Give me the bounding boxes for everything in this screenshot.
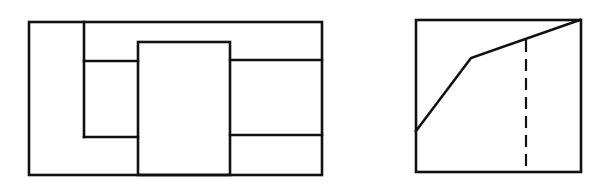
bent-curve-line	[416, 20, 580, 131]
left-figure	[29, 22, 322, 175]
central-block	[138, 42, 230, 175]
left-outer-frame	[29, 22, 322, 175]
diagram-canvas	[0, 0, 605, 191]
right-figure	[416, 20, 581, 172]
